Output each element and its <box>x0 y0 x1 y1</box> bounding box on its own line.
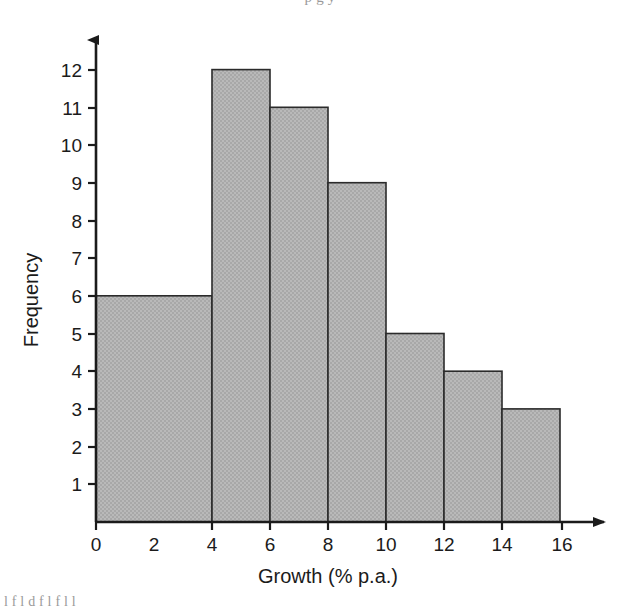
y-axis-title: Frequency <box>20 253 42 348</box>
bar-4-6 <box>212 70 270 522</box>
x-ticklabel-12: 12 <box>433 534 454 555</box>
x-axis-title: Growth (% p.a.) <box>258 565 398 587</box>
histogram-figure: p g y <box>0 0 640 610</box>
x-ticklabel-10: 10 <box>375 534 396 555</box>
y-ticklabel-3: 3 <box>71 399 82 420</box>
x-ticklabel-2: 2 <box>149 534 160 555</box>
bar-14-16 <box>502 409 560 522</box>
bar-0-4 <box>96 296 212 522</box>
chart-plot-area: 12 11 10 9 8 7 6 5 4 3 2 1 <box>0 0 640 610</box>
y-ticklabel-10: 10 <box>61 135 82 156</box>
x-ticklabel-4: 4 <box>207 534 218 555</box>
chart-canvas: 12 11 10 9 8 7 6 5 4 3 2 1 <box>0 0 640 610</box>
bar-8-10 <box>328 183 386 522</box>
y-ticklabel-1: 1 <box>71 474 82 495</box>
bar-12-14 <box>444 371 502 522</box>
y-axis-tick-labels: 12 11 10 9 8 7 6 5 4 3 2 1 <box>61 60 83 495</box>
bar-6-8 <box>270 107 328 522</box>
y-ticklabel-7: 7 <box>71 248 82 269</box>
y-ticklabel-11: 11 <box>62 98 82 119</box>
y-ticklabel-12: 12 <box>61 60 82 81</box>
y-ticklabel-5: 5 <box>71 324 82 345</box>
x-ticklabel-14: 14 <box>491 534 513 555</box>
bar-10-12 <box>386 334 444 523</box>
x-ticklabel-0: 0 <box>91 534 102 555</box>
x-ticklabel-6: 6 <box>265 534 276 555</box>
y-ticklabel-8: 8 <box>71 211 82 232</box>
histogram-bars <box>96 70 560 522</box>
x-axis-tick-labels: 0 2 4 6 8 10 12 14 16 <box>91 534 573 555</box>
x-ticklabel-16: 16 <box>551 534 572 555</box>
y-ticklabel-9: 9 <box>71 173 82 194</box>
x-ticklabel-8: 8 <box>323 534 334 555</box>
y-ticklabel-6: 6 <box>71 286 82 307</box>
y-ticklabel-4: 4 <box>71 361 82 382</box>
y-ticklabel-2: 2 <box>71 437 82 458</box>
